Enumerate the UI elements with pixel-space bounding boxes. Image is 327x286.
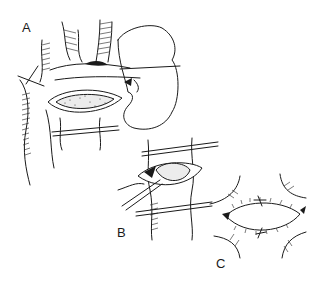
panel-label-b: B xyxy=(117,226,126,239)
panel-b-drawing xyxy=(118,138,218,240)
panel-a-drawing xyxy=(18,20,180,185)
illustration-canvas xyxy=(0,0,327,286)
panel-c-drawing xyxy=(210,174,306,258)
panel-label-c: C xyxy=(216,257,225,270)
surgical-figure: A B C xyxy=(0,0,327,286)
panel-label-a: A xyxy=(22,21,31,34)
